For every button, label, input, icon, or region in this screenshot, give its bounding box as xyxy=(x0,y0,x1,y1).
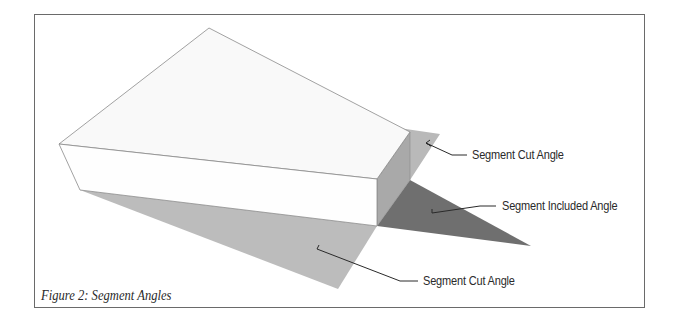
figure-caption: Figure 2: Segment Angles xyxy=(41,288,172,304)
included-angle-label: Segment Included Angle xyxy=(502,199,617,213)
upper-cut-angle-label: Segment Cut Angle xyxy=(472,148,564,162)
segment-prism-diagram xyxy=(0,0,679,325)
lower-cut-angle-label: Segment Cut Angle xyxy=(423,274,515,288)
